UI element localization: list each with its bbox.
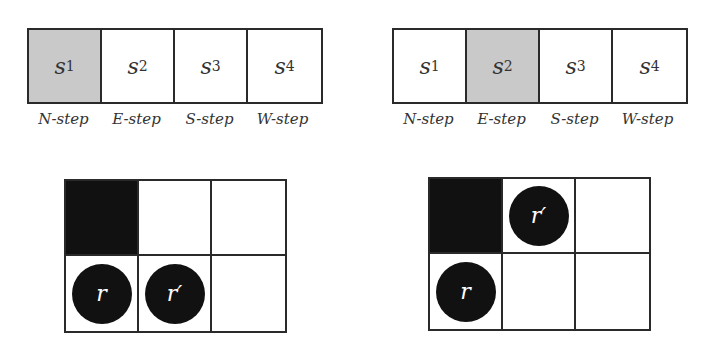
state-subscript: 1 [66,58,75,74]
grid-cell [139,181,212,256]
grid-cell: r′ [139,256,212,331]
state-label: s [127,54,138,79]
grid-cell [503,254,576,329]
state-s4: s4 [248,30,321,102]
robot-r-prime: r′ [145,264,205,324]
state-s1: s1 [394,30,467,102]
state-label: s [565,54,576,79]
state-strip-right: s1 s2 s3 s4 [392,28,688,104]
step-label: S-step [173,110,246,128]
robot-r: r [72,264,132,324]
grid-cell: r′ [503,179,576,254]
state-strip-left: s1 s2 s3 s4 [27,28,323,104]
wall-cell [66,181,139,256]
grid-cell [212,181,285,256]
state-label: s [639,54,650,79]
grid-cell [576,254,649,329]
step-label: W-step [246,110,319,128]
step-label: S-step [538,110,611,128]
state-subscript: 3 [577,58,586,74]
state-label: s [54,54,65,79]
robot-r-prime: r′ [509,186,569,246]
state-subscript: 2 [139,58,148,74]
step-label: N-step [392,110,465,128]
grid-world-left: r r′ [64,179,287,333]
grid-cell: r [66,256,139,331]
state-subscript: 4 [651,58,660,74]
state-subscript: 1 [431,58,440,74]
state-label: s [492,54,503,79]
grid-cell [576,179,649,254]
wall-cell [430,179,503,254]
state-label: s [274,54,285,79]
step-labels-left: N-step E-step S-step W-step [27,110,319,128]
state-label: s [419,54,430,79]
state-s2: s2 [102,30,175,102]
state-subscript: 4 [286,58,295,74]
state-label: s [200,54,211,79]
state-s3: s3 [540,30,613,102]
state-s1: s1 [29,30,102,102]
state-s2: s2 [467,30,540,102]
state-subscript: 2 [504,58,513,74]
grid-cell: r [430,254,503,329]
step-label: N-step [27,110,100,128]
state-s3: s3 [175,30,248,102]
robot-r: r [436,262,496,322]
step-label: E-step [465,110,538,128]
grid-world-right: r′ r [428,177,651,331]
step-label: W-step [611,110,684,128]
step-labels-right: N-step E-step S-step W-step [392,110,684,128]
step-label: E-step [100,110,173,128]
state-subscript: 3 [212,58,221,74]
state-s4: s4 [613,30,686,102]
grid-cell [212,256,285,331]
